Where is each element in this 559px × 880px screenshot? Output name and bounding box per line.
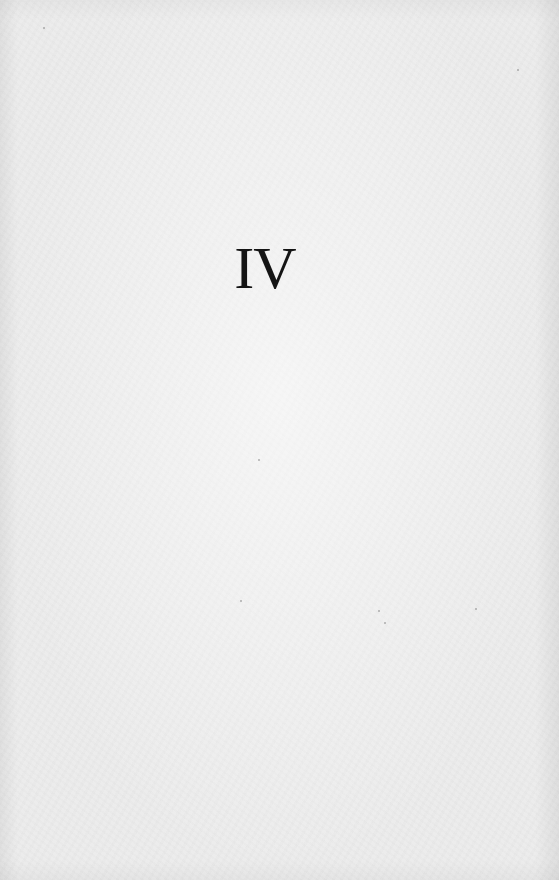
paper-speck: [384, 622, 386, 624]
paper-speck: [240, 600, 242, 602]
paper-speck: [43, 27, 45, 29]
paper-speck: [475, 608, 477, 610]
part-number-heading: IV: [0, 232, 530, 304]
paper-speck: [378, 610, 380, 612]
paper-speck: [258, 459, 260, 461]
book-page: IV: [0, 0, 559, 880]
paper-speck: [517, 69, 519, 71]
